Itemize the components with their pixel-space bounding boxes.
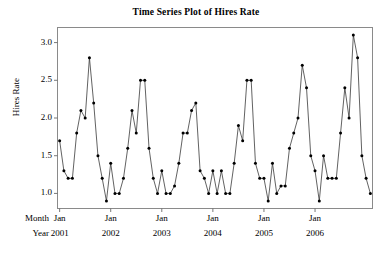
x-tick-label-month: Jan	[40, 213, 80, 223]
x-tick-label-year: 2003	[142, 228, 182, 238]
x-tick-label-year: 2004	[193, 228, 233, 238]
x-tick-label-year: 2001	[40, 228, 80, 238]
x-tick-label-year: 2005	[244, 228, 284, 238]
x-tick-label-year: 2002	[91, 228, 131, 238]
x-tick-label-month: Jan	[91, 213, 131, 223]
x-tick-label-month: Jan	[244, 213, 284, 223]
x-tick-label-month: Jan	[142, 213, 182, 223]
x-tick-label-month: Jan	[295, 213, 335, 223]
chart-figure: Time Series Plot of Hires Rate Hires Rat…	[0, 0, 392, 253]
x-axis-labels: Month Year Jan2001Jan2002Jan2003Jan2004J…	[0, 0, 392, 253]
x-tick-label-year: 2006	[295, 228, 335, 238]
x-tick-label-month: Jan	[193, 213, 233, 223]
